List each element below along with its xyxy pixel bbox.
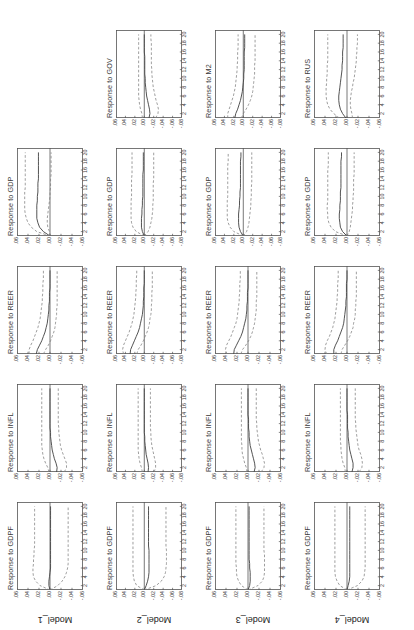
x-tick-label: 2 xyxy=(83,230,88,233)
y-tick-label: -.06 xyxy=(269,237,274,246)
x-axis-ticks: 2468101214161820 xyxy=(380,502,388,590)
x-tick-label: 18 xyxy=(83,512,88,518)
x-tick-label: 8 xyxy=(380,322,385,325)
x-tick-label: 4 xyxy=(182,221,187,224)
x-tick-label: 16 xyxy=(182,285,187,291)
panel-title: Response to GDP xyxy=(105,132,114,236)
plot-frame xyxy=(117,267,182,354)
x-tick-label: 10 xyxy=(380,193,385,199)
y-axis-ticks: .06.04.02.00-.02-.04-.06-.08 xyxy=(116,236,182,250)
x-tick-label: 16 xyxy=(281,49,286,55)
row-label-model_4: Model_4 xyxy=(302,615,401,625)
plot-canvas xyxy=(116,30,182,118)
y-tick-label: .06 xyxy=(212,119,217,127)
x-tick-label: 18 xyxy=(182,276,187,282)
y-tick-label: .00 xyxy=(344,591,349,599)
irf-figure: Model_1Response to GDPF.06.04.02.00-.02-… xyxy=(0,0,414,630)
irf-panel-model_4-gdp: Response to GDP.06.04.02.00-.02-.04-.062… xyxy=(303,132,402,250)
plot-frame xyxy=(216,149,281,236)
x-tick-label: 8 xyxy=(281,204,286,207)
x-tick-label: 8 xyxy=(182,322,187,325)
x-tick-label: 6 xyxy=(182,449,187,452)
irf-panel-model_2-infl: Response to INFL.06.04.02.00-.02-.04-.06… xyxy=(105,368,204,486)
x-tick-label: 10 xyxy=(380,75,385,81)
y-tick-label: .02 xyxy=(132,591,137,599)
plot-canvas xyxy=(215,30,281,118)
x-tick-label: 18 xyxy=(281,512,286,518)
row-label-model_1: Model_1 xyxy=(5,615,104,625)
x-tick-label: 20 xyxy=(281,385,286,391)
y-tick-label: .06 xyxy=(113,237,118,245)
y-tick-label: -.02 xyxy=(151,591,156,600)
y-tick-label: .06 xyxy=(311,355,316,363)
y-tick-label: .04 xyxy=(222,237,227,245)
x-tick-label: 4 xyxy=(281,339,286,342)
irf-panel-model_2-gdpf: Response to GDPF.06.04.02.00-.02-.04-.06… xyxy=(105,486,204,604)
y-tick-label: -.02 xyxy=(151,355,156,364)
y-axis-ticks: .06.04.02.00-.02-.04-.06 xyxy=(17,472,83,486)
x-axis-ticks: 2468101214161820 xyxy=(83,384,91,472)
y-tick-label: .00 xyxy=(47,591,52,599)
panel-title: Response to REER xyxy=(105,250,114,354)
x-tick-label: 10 xyxy=(281,193,286,199)
y-axis-ticks: .06.04.02.00-.02-.04-.06 xyxy=(314,118,380,132)
x-tick-label: 10 xyxy=(281,311,286,317)
x-tick-label: 16 xyxy=(380,285,385,291)
x-tick-label: 10 xyxy=(281,75,286,81)
x-tick-label: 14 xyxy=(83,176,88,182)
y-tick-label: -.02 xyxy=(151,237,156,246)
x-tick-label: 20 xyxy=(182,149,187,155)
x-tick-label: 16 xyxy=(182,49,187,55)
x-axis-ticks: 2468101214161820 xyxy=(380,148,388,236)
x-tick-label: 10 xyxy=(83,311,88,317)
plot-frame xyxy=(216,31,281,118)
y-tick-label: .02 xyxy=(234,355,239,363)
x-tick-label: 6 xyxy=(83,213,88,216)
x-tick-label: 6 xyxy=(182,331,187,334)
y-tick-label: -.04 xyxy=(69,237,74,246)
x-tick-label: 4 xyxy=(281,457,286,460)
x-tick-label: 16 xyxy=(380,521,385,527)
y-tick-label: -.06 xyxy=(80,237,85,246)
x-tick-label: 18 xyxy=(281,276,286,282)
x-axis-ticks: 2468101214161820 xyxy=(182,266,190,354)
y-tick-label: .00 xyxy=(344,473,349,481)
x-tick-label: 12 xyxy=(182,303,187,309)
x-tick-label: 12 xyxy=(380,421,385,427)
y-tick-label: .02 xyxy=(333,473,338,481)
x-tick-label: 4 xyxy=(83,221,88,224)
y-tick-label: -.04 xyxy=(267,591,272,600)
plot-frame xyxy=(117,31,182,118)
x-tick-label: 12 xyxy=(182,539,187,545)
y-tick-label: -.08 xyxy=(179,119,184,128)
x-tick-label: 12 xyxy=(380,539,385,545)
panel-title: Response to RUS xyxy=(303,14,312,118)
panel-title: Response to REER xyxy=(204,250,213,354)
x-tick-label: 20 xyxy=(83,385,88,391)
y-axis-ticks: .06.04.02.00-.02-.04-.06 xyxy=(17,590,83,604)
x-tick-label: 20 xyxy=(380,31,385,37)
y-tick-label: -.06 xyxy=(269,119,274,128)
y-tick-label: .04 xyxy=(223,591,228,599)
y-tick-label: .06 xyxy=(113,473,118,481)
y-tick-label: .04 xyxy=(123,355,128,363)
x-tick-label: 4 xyxy=(83,575,88,578)
y-tick-label: -.08 xyxy=(179,355,184,364)
panel-title: Response to GDP xyxy=(6,132,15,236)
y-tick-label: -.08 xyxy=(179,591,184,600)
y-tick-label: .02 xyxy=(36,591,41,599)
panel-title: Response to REER xyxy=(6,250,15,354)
y-tick-label: -.02 xyxy=(256,355,261,364)
y-tick-label: -.04 xyxy=(160,473,165,482)
y-tick-label: -.02 xyxy=(58,355,63,364)
irf-panel-model_2-gdp: Response to GDP.06.04.02.00-.02-.04-.06-… xyxy=(105,132,204,250)
y-tick-label: .00 xyxy=(47,237,52,245)
y-tick-label: .02 xyxy=(36,237,41,245)
plot-canvas xyxy=(215,502,281,590)
irf-panel-model_3-reer: Response to REER.06.04.02.00-.02-.04-.06… xyxy=(204,250,303,368)
x-tick-label: 20 xyxy=(83,267,88,273)
x-tick-label: 14 xyxy=(380,176,385,182)
x-tick-label: 18 xyxy=(380,276,385,282)
x-tick-label: 4 xyxy=(281,103,286,106)
x-tick-label: 12 xyxy=(83,185,88,191)
